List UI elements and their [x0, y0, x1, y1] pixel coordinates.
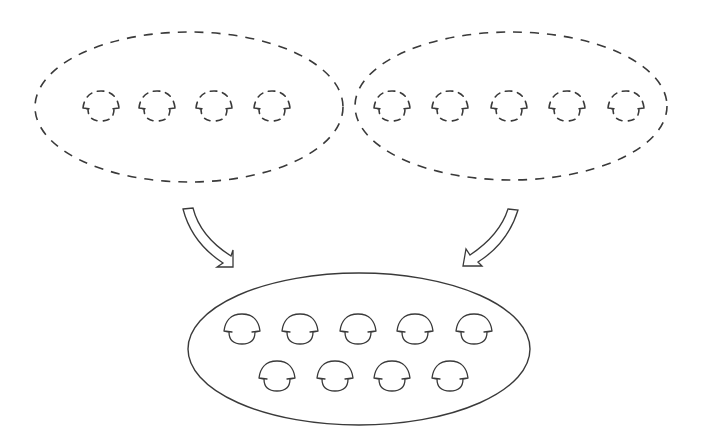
left-source-group-boundary: [35, 32, 343, 182]
bead-unit-icon: [456, 314, 492, 344]
bead-unit-icon: [340, 314, 376, 344]
right-source-group-boundary: [355, 32, 667, 180]
diagram-canvas: [0, 0, 701, 440]
bead-unit-icon: [254, 91, 290, 121]
merged-result-group-boundary: [188, 273, 530, 425]
bead-unit-icon: [224, 314, 260, 344]
bead-unit-icon: [259, 361, 295, 391]
bead-unit-icon: [317, 361, 353, 391]
arrows-layer: [183, 208, 518, 267]
bead-unit-icon: [608, 91, 644, 121]
bead-unit-icon: [549, 91, 585, 121]
left-source-group: [35, 32, 343, 182]
right-merge-arrow-icon: [463, 209, 518, 266]
bead-unit-icon: [491, 91, 527, 121]
bead-unit-icon: [83, 91, 119, 121]
merged-result-group: [188, 273, 530, 425]
merge-diagram: [0, 0, 701, 440]
bead-unit-icon: [432, 91, 468, 121]
bead-unit-icon: [374, 91, 410, 121]
bead-unit-icon: [282, 314, 318, 344]
bead-unit-icon: [374, 361, 410, 391]
groups-layer: [35, 32, 667, 425]
bead-unit-icon: [432, 361, 468, 391]
bead-unit-icon: [397, 314, 433, 344]
bead-unit-icon: [139, 91, 175, 121]
left-merge-arrow-icon: [183, 208, 233, 267]
bead-unit-icon: [196, 91, 232, 121]
right-source-group: [355, 32, 667, 180]
